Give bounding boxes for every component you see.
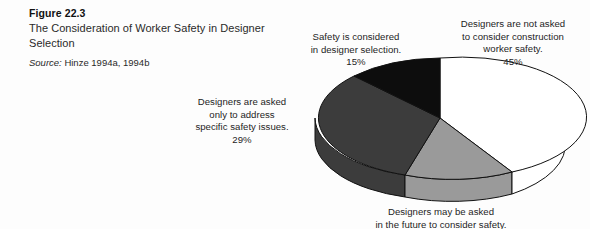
pie-label-specific-issues-percent: 29% bbox=[168, 134, 316, 146]
figure-source: Source: Hinze 1994a, 1994b bbox=[29, 56, 279, 69]
figure-title: The Consideration of Worker Safety in De… bbox=[29, 21, 279, 50]
pie-label-specific-issues-text: Designers are asked only to address spec… bbox=[195, 96, 288, 132]
figure-container: Figure 22.3 The Consideration of Worker … bbox=[0, 0, 590, 229]
pie-label-considered-percent: 15% bbox=[287, 56, 425, 68]
pie-label-future-text: Designers may be asked in the future to … bbox=[375, 206, 506, 229]
source-text: Hinze 1994a, 1994b bbox=[62, 57, 150, 68]
pie-label-not-asked-text: Designers are not asked to consider cons… bbox=[461, 18, 565, 54]
pie-label-considered-text: Safety is considered in designer selecti… bbox=[311, 31, 402, 54]
source-label: Source: bbox=[29, 57, 62, 68]
pie-label-not-asked: Designers are not asked to consider cons… bbox=[437, 6, 589, 80]
pie-label-not-asked-percent: 45% bbox=[437, 56, 589, 68]
figure-number: Figure 22.3 bbox=[29, 6, 279, 20]
pie-label-specific-issues: Designers are asked only to address spec… bbox=[168, 84, 316, 158]
pie-label-considered: Safety is considered in designer selecti… bbox=[287, 19, 425, 81]
figure-caption: Figure 22.3 The Consideration of Worker … bbox=[29, 6, 279, 69]
pie-label-future: Designers may be asked in the future to … bbox=[330, 194, 552, 229]
